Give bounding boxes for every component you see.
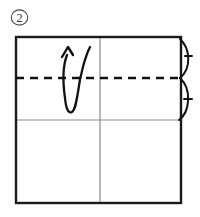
step-number-label: 2 xyxy=(16,10,23,25)
origami-step-diagram: 2 xyxy=(0,0,200,217)
